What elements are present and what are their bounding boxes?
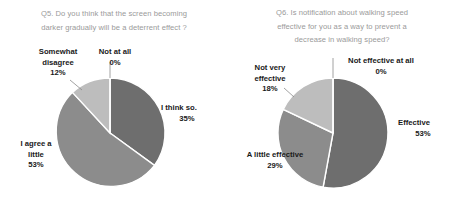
pie-chart-q6 [228, 0, 456, 214]
pie-label-q5-i-agree-a-little-pct: 53% [8, 160, 64, 171]
pie-label-q6-effective: Effective 53% [398, 118, 454, 139]
pie-label-q5-i-think-so: I think so. 35% [161, 103, 223, 124]
pie-label-q5-somewhat-disagree-line2: disagree [29, 58, 87, 69]
pie-label-q6-not-very-effective-line2: effective [240, 74, 300, 85]
pie-label-q6-not-very-effective: Not very effective 18% [240, 63, 300, 95]
pie-label-q5-i-agree-a-little-line1: I agree a [20, 139, 51, 148]
pie-chart-figure: Q5. Do you think that the screen becomin… [0, 0, 456, 214]
pie-label-q6-effective-pct: 53% [398, 129, 448, 140]
pie-label-q6-not-effective-at-all: Not effective at all 0% [326, 56, 436, 77]
pie-label-q6-a-little-effective: A little effective 29% [229, 150, 321, 171]
pie-label-q6-a-little-effective-text: A little effective [247, 150, 304, 159]
pie-label-q5-somewhat-disagree-pct: 12% [29, 68, 87, 79]
pie-label-q6-not-effective-at-all-text: Not effective at all [348, 56, 414, 65]
pie-label-q5-i-think-so-pct: 35% [161, 114, 213, 125]
pie-label-q5-not-at-all: Not at all 0% [88, 47, 142, 68]
chart-panel-q5: Q5. Do you think that the screen becomin… [0, 0, 228, 214]
pie-label-q5-not-at-all-text: Not at all [99, 47, 131, 56]
pie-label-q5-i-agree-a-little-line2: little [8, 150, 64, 161]
pie-label-q5-i-agree-a-little: I agree a little 53% [8, 139, 64, 171]
pie-label-q6-not-very-effective-pct: 18% [240, 84, 300, 95]
pie-label-q5-i-think-so-text: I think so. [161, 103, 197, 112]
chart-panel-q6: Q6. Is notification about walking speed … [228, 0, 456, 214]
pie-label-q5-not-at-all-pct: 0% [88, 58, 142, 69]
pie-label-q6-not-very-effective-line1: Not very [255, 63, 286, 72]
pie-label-q5-somewhat-disagree: Somewhat disagree 12% [29, 47, 87, 79]
pie-label-q6-a-little-effective-pct: 29% [229, 161, 321, 172]
pie-label-q6-not-effective-at-all-pct: 0% [326, 67, 436, 78]
pie-label-q6-effective-text: Effective [398, 118, 430, 127]
pie-label-q5-somewhat-disagree-line1: Somewhat [39, 47, 77, 56]
